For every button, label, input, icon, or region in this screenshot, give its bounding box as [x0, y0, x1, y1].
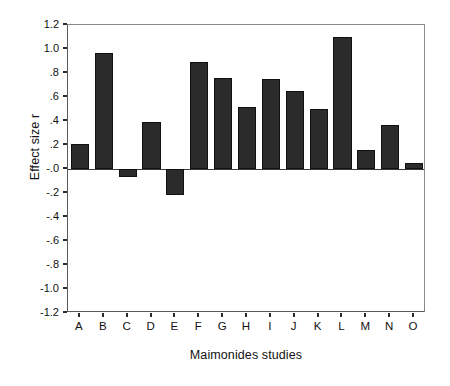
bar-J	[286, 91, 304, 169]
y-tick-label: .6	[26, 91, 59, 102]
bar-C	[119, 169, 137, 177]
y-tick-label: -.6	[26, 235, 59, 246]
x-tick-mark	[364, 313, 366, 317]
bar-K	[310, 109, 328, 169]
x-tick-mark	[269, 313, 271, 317]
x-tick-mark	[412, 313, 414, 317]
y-tick-label: 1.2	[26, 19, 59, 30]
bar-E	[166, 169, 184, 195]
bar-L	[333, 37, 351, 169]
y-axis-tick-labels: 1.21.0.8.6.4.2-.0-.2-.4-.6-.8-1.0-1.2	[26, 24, 59, 312]
y-tick-label: .4	[26, 115, 59, 126]
x-tick-mark	[340, 313, 342, 317]
x-tick-mark	[221, 313, 223, 317]
y-tick-label: -.4	[26, 211, 59, 222]
y-tick-label: 1.0	[26, 43, 59, 54]
effect-size-bar-chart: Effect size r 1.21.0.8.6.4.2-.0-.2-.4-.6…	[0, 0, 450, 386]
y-tick-label: -.8	[26, 259, 59, 270]
x-tick-mark	[197, 313, 199, 317]
bar-F	[190, 62, 208, 169]
x-tick-mark	[245, 313, 247, 317]
bar-A	[71, 144, 89, 169]
y-tick-label: -1.2	[26, 307, 59, 318]
y-tick-label: -1.0	[26, 283, 59, 294]
x-tick-mark	[388, 313, 390, 317]
bar-I	[262, 79, 280, 169]
bar-O	[405, 163, 423, 169]
x-tick-mark	[173, 313, 175, 317]
x-axis-title: Maimonides studies	[67, 348, 425, 362]
bar-M	[357, 150, 375, 169]
x-tick-mark	[78, 313, 80, 317]
x-tick-mark	[293, 313, 295, 317]
x-tick-mark	[102, 313, 104, 317]
x-tick-mark	[126, 313, 128, 317]
x-tick-label-O: O	[398, 320, 428, 333]
y-tick-label: .8	[26, 67, 59, 78]
x-tick-mark	[150, 313, 152, 317]
plot-area	[67, 24, 425, 312]
plot-inner	[68, 25, 424, 311]
bar-N	[381, 125, 399, 169]
y-tick-label: -.0	[26, 163, 59, 174]
bar-H	[238, 107, 256, 169]
y-tick-label: .2	[26, 139, 59, 150]
bar-B	[95, 53, 113, 169]
x-tick-mark	[317, 313, 319, 317]
bar-G	[214, 78, 232, 169]
y-tick-label: -.2	[26, 187, 59, 198]
bar-D	[142, 122, 160, 169]
